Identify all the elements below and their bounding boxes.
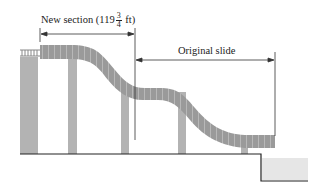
platform-railing <box>20 50 40 56</box>
original-slide-label: Original slide <box>178 45 235 56</box>
pillar-2 <box>121 92 129 154</box>
new-section-label: New section (11934 ft) <box>41 12 135 29</box>
pool <box>262 158 308 180</box>
unit-text: ft) <box>123 14 136 25</box>
new-section-length-text: New section (119 <box>41 14 115 25</box>
water-slide-diagram <box>0 0 322 195</box>
fraction-denominator: 4 <box>117 21 121 29</box>
fraction: 34 <box>116 12 122 29</box>
tower-pillar <box>20 57 38 154</box>
pillar-1 <box>68 58 77 154</box>
